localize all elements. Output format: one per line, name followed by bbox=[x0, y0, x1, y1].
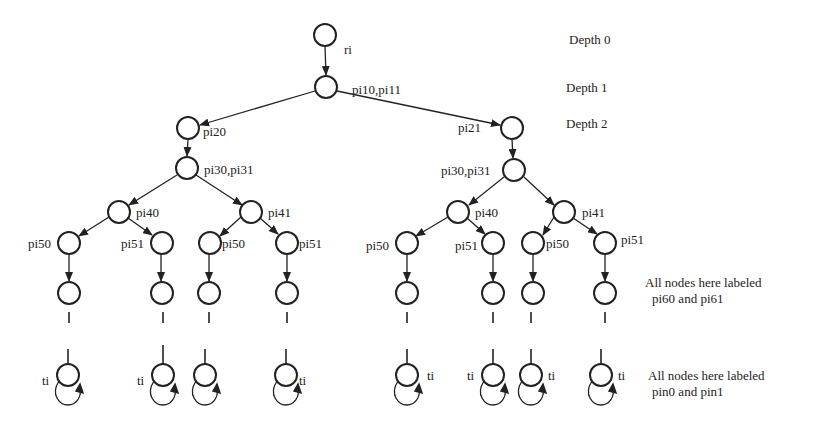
node-pi21 bbox=[501, 117, 523, 139]
label-d5: pi51 bbox=[121, 236, 144, 251]
node-terminal bbox=[152, 364, 174, 386]
label-terminal: ti bbox=[548, 368, 556, 383]
node-d5 bbox=[151, 232, 173, 254]
node-right-pi30 bbox=[503, 159, 525, 181]
node-d6 bbox=[522, 282, 544, 304]
node-terminal bbox=[194, 364, 216, 386]
node-d6 bbox=[198, 282, 220, 304]
annotation-level6-line2: pi60 and pi61 bbox=[652, 291, 724, 306]
tree-diagram: ri pi10,pi11 pi20 pi21 pi30,pi31 pi30,pi… bbox=[0, 0, 814, 437]
label-d5: pi50 bbox=[222, 236, 245, 251]
label-right-pi40: pi40 bbox=[475, 205, 498, 220]
node-left-pi41 bbox=[240, 201, 262, 223]
label-left-pi30: pi30,pi31 bbox=[204, 162, 253, 177]
node-d6 bbox=[58, 282, 80, 304]
node-pi20 bbox=[177, 117, 199, 139]
node-d5 bbox=[396, 232, 418, 254]
annotation-bottom-line1: All nodes here labeled bbox=[648, 368, 765, 383]
node-right-pi41 bbox=[553, 201, 575, 223]
node-right-pi40 bbox=[447, 201, 469, 223]
node-terminal bbox=[590, 364, 612, 386]
edges bbox=[55, 46, 616, 405]
node-d5 bbox=[276, 232, 298, 254]
node-terminal bbox=[275, 364, 297, 386]
label-left-pi40: pi40 bbox=[136, 205, 159, 220]
label-d5: pi50 bbox=[366, 238, 389, 253]
depth-labels: Depth 0 Depth 1 Depth 2 bbox=[566, 32, 611, 131]
label-depth1: pi10,pi11 bbox=[352, 82, 401, 97]
node-root bbox=[314, 24, 336, 46]
label-terminal: ti bbox=[427, 368, 435, 383]
annotations: All nodes here labeled pi60 and pi61 All… bbox=[645, 275, 765, 399]
node-terminal bbox=[520, 364, 542, 386]
depth-2-label: Depth 2 bbox=[566, 116, 608, 131]
node-left-pi30 bbox=[176, 157, 198, 179]
node-d6 bbox=[482, 282, 504, 304]
node-terminal bbox=[396, 364, 418, 386]
node-d5 bbox=[199, 232, 221, 254]
label-d5: pi50 bbox=[28, 236, 51, 251]
label-terminal: ti bbox=[618, 368, 626, 383]
annotation-bottom-line2: pin0 and pin1 bbox=[652, 384, 724, 399]
node-d5 bbox=[482, 232, 504, 254]
label-d5: pi51 bbox=[455, 238, 478, 253]
label-d5: pi51 bbox=[621, 232, 644, 247]
node-d6 bbox=[276, 282, 298, 304]
node-d6 bbox=[151, 282, 173, 304]
node-d6 bbox=[594, 282, 616, 304]
label-right-pi30: pi30,pi31 bbox=[441, 163, 490, 178]
node-left-pi40 bbox=[108, 201, 130, 223]
depth-1-label: Depth 1 bbox=[566, 80, 608, 95]
label-terminal: ti bbox=[137, 373, 145, 388]
label-root: ri bbox=[344, 42, 352, 57]
depth-0-label: Depth 0 bbox=[569, 32, 611, 47]
label-right-pi41: pi41 bbox=[582, 205, 605, 220]
label-terminal: ti bbox=[42, 373, 50, 388]
label-terminal: ti bbox=[467, 368, 475, 383]
annotation-level6-line1: All nodes here labeled bbox=[645, 275, 762, 290]
label-terminal: ti bbox=[299, 373, 307, 388]
node-d5 bbox=[58, 232, 80, 254]
node-d5 bbox=[522, 232, 544, 254]
label-pi20: pi20 bbox=[203, 124, 226, 139]
node-terminal bbox=[57, 364, 79, 386]
node-depth1 bbox=[315, 76, 337, 98]
node-d5 bbox=[594, 232, 616, 254]
label-d5: pi51 bbox=[299, 236, 322, 251]
node-d6 bbox=[396, 282, 418, 304]
label-d5: pi50 bbox=[546, 236, 569, 251]
node-terminal bbox=[482, 364, 504, 386]
label-left-pi41: pi41 bbox=[268, 205, 291, 220]
label-pi21: pi21 bbox=[458, 120, 481, 135]
